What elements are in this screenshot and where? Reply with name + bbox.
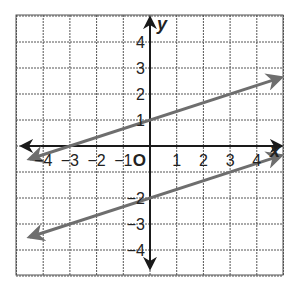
- y-tick-label: −2: [127, 190, 145, 207]
- axes: [22, 18, 281, 268]
- x-tick-label: −4: [34, 152, 52, 169]
- y-tick-label: 1: [136, 112, 145, 129]
- x-tick-label: 1: [172, 152, 181, 169]
- y-tick-label: −3: [127, 216, 145, 233]
- y-tick-label: 2: [136, 86, 145, 103]
- x-tick-label: −2: [87, 152, 105, 169]
- y-tick-label: 3: [136, 60, 145, 77]
- x-tick-label: 2: [199, 152, 208, 169]
- y-axis-label: y: [156, 14, 168, 34]
- y-tick-label: −4: [127, 242, 145, 259]
- origin-label: O: [133, 151, 146, 170]
- x-tick-label: −3: [61, 152, 79, 169]
- x-tick-label: 4: [252, 152, 261, 169]
- x-tick-label: −1: [114, 152, 132, 169]
- x-axis-label: x: [269, 141, 281, 161]
- y-tick-label: 4: [136, 34, 145, 51]
- x-tick-label: 3: [226, 152, 235, 169]
- coordinate-plane: −4−3−2−112344321−2−3−4Oxy: [0, 0, 287, 287]
